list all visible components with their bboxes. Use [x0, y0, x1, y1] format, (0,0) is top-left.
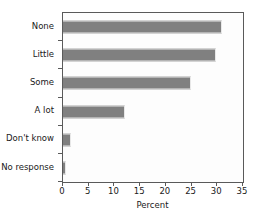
x-axis-tick-label: 30	[211, 187, 222, 196]
bar-little	[63, 49, 216, 62]
y-axis-label-no-response: No response	[0, 153, 58, 181]
x-axis-tick-label: 25	[185, 187, 196, 196]
plot-area	[62, 12, 244, 183]
bar-row	[63, 69, 243, 97]
bar-some	[63, 77, 191, 90]
x-axis-tick-label: 10	[108, 187, 119, 196]
bar-row	[63, 13, 243, 41]
y-axis-label-little: Little	[0, 40, 58, 68]
bar-none	[63, 21, 222, 34]
y-axis-label-none: None	[0, 12, 58, 40]
bar-row	[63, 154, 243, 182]
y-axis-label-dont-know: Don't know	[0, 125, 58, 153]
bar-dont-know	[63, 133, 71, 146]
bar-row	[63, 98, 243, 126]
x-axis-tick-label: 15	[134, 187, 145, 196]
x-axis-title: Percent	[62, 201, 243, 210]
x-axis-tick-label: 20	[159, 187, 170, 196]
bar-row	[63, 41, 243, 69]
x-axis-tick-label: 0	[59, 187, 64, 196]
bar-a-lot	[63, 105, 125, 118]
x-axis-tick-label: 35	[237, 187, 248, 196]
x-axis-tick-labels: 05101520253035	[62, 187, 243, 199]
y-axis-category-labels: None Little Some A lot Don't know No res…	[0, 12, 58, 181]
bar-chart: None Little Some A lot Don't know No res…	[0, 0, 254, 219]
bar-row	[63, 126, 243, 154]
bar-no-response	[63, 161, 66, 174]
x-axis-tick-label: 5	[85, 187, 90, 196]
y-axis-label-a-lot: A lot	[0, 97, 58, 125]
y-axis-label-some: Some	[0, 68, 58, 96]
